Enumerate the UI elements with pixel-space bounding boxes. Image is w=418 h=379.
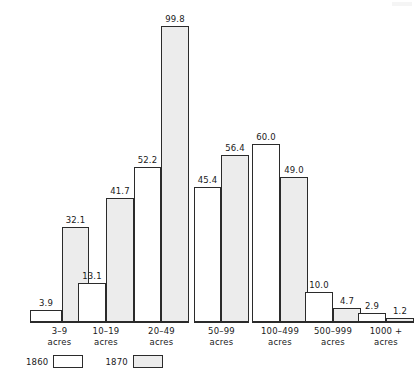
plot-area: 3.932.13–9acres13.141.710–19acres52.299.… xyxy=(0,0,418,379)
bar-1860-50–99 xyxy=(194,187,221,322)
bar-1870-50–99 xyxy=(221,155,249,322)
value-label-1870-50–99: 56.4 xyxy=(215,144,255,153)
legend-label-1870: 1870 xyxy=(105,357,127,367)
value-label-1870-20–49: 99.8 xyxy=(155,15,195,24)
legend-entry-1860: 1860 xyxy=(26,355,83,368)
category-unit: acres xyxy=(346,337,418,348)
legend-entry-1870: 1870 xyxy=(105,355,162,368)
bar-1870-10–19 xyxy=(106,198,134,322)
axis-baseline-segment xyxy=(78,322,134,323)
value-label-1860-500–999: 10.0 xyxy=(299,281,339,290)
axis-baseline-segment xyxy=(305,322,361,323)
bar-1870-20–49 xyxy=(161,26,189,322)
value-label-1860-100–499: 60.0 xyxy=(246,133,286,142)
bar-1870-100–499 xyxy=(280,177,308,322)
legend-label-1860: 1860 xyxy=(26,357,48,367)
legend-swatch-1860 xyxy=(53,355,83,368)
category-label-1000: 1000 +acres xyxy=(346,326,418,348)
value-label-1870-1000: 1.2 xyxy=(380,307,418,316)
value-label-1870-100–499: 49.0 xyxy=(274,166,314,175)
category-range: 1000 + xyxy=(346,326,418,337)
bar-1860-10–19 xyxy=(78,283,106,322)
value-label-1870-3–9: 32.1 xyxy=(56,216,95,225)
bar-chart: 3.932.13–9acres13.141.710–19acres52.299.… xyxy=(0,0,418,379)
bar-1860-20–49 xyxy=(134,167,161,322)
axis-baseline-segment xyxy=(134,322,189,323)
axis-baseline-segment xyxy=(194,322,249,323)
axis-baseline-segment xyxy=(252,322,308,323)
axis-baseline-segment xyxy=(358,322,414,323)
bar-1860-3–9 xyxy=(30,310,62,322)
legend-swatch-1870 xyxy=(133,355,163,368)
chart-legend: 1860 1870 xyxy=(26,355,163,368)
